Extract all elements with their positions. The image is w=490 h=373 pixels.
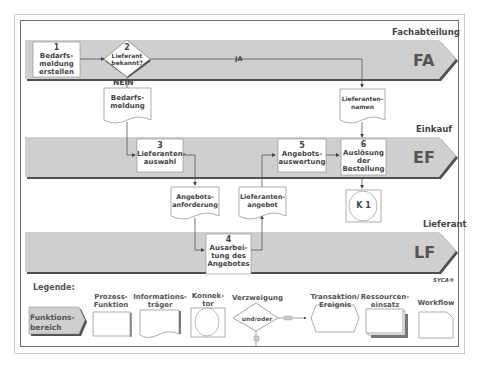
- process-step-5[interactable]: 5 Angebots- auswertung: [278, 141, 326, 166]
- legend-label-konnektor: Konnek- tor: [188, 292, 228, 308]
- legend-label-informationstraeger: Informations- träger: [132, 293, 188, 309]
- document-angebotsanforderung[interactable]: Angebots- anforderung: [171, 193, 219, 209]
- decision-label: Lieferant bekannt?: [111, 52, 142, 66]
- legend-label-verzweigung: Verzweigung: [232, 294, 282, 302]
- step-number: 5: [278, 141, 326, 150]
- connector-k1[interactable]: K 1: [346, 202, 381, 210]
- document-bedarfsmeldung[interactable]: Bedarfs- meldung: [104, 94, 151, 110]
- legend-label-transaktion: Transaktion/ Ereignis: [301, 293, 369, 309]
- legend-shape-prozess: [93, 312, 131, 337]
- legend-shape-informationstraeger: [140, 310, 180, 338]
- process-step-6[interactable]: 6 Auslösung der Bestellung: [341, 140, 386, 173]
- decision-2[interactable]: 2 Lieferant bekannt?: [108, 43, 146, 66]
- process-step-4[interactable]: 4 Ausarbei- tung des Angebotes: [206, 235, 251, 268]
- legend-shape-workflow: [419, 312, 453, 338]
- step-number: 1: [33, 43, 80, 52]
- brand-mark: SYCA®: [433, 277, 455, 283]
- no-label: NEIN: [113, 79, 133, 87]
- lane-code-lf: LF: [414, 243, 435, 262]
- lane-code-fa: FA: [413, 51, 434, 70]
- document-lieferantennamen[interactable]: Lieferanten- namen: [340, 95, 385, 111]
- document-lieferantenangebot[interactable]: Lieferanten- angebot: [239, 193, 286, 209]
- lane-name-lf: Lieferant: [423, 219, 467, 229]
- step-number: 6: [341, 140, 386, 149]
- legend-verzweigung-inner: und/oder: [240, 315, 274, 323]
- legend-label-ressourcen: Ressourcen- einsatz: [360, 293, 410, 309]
- step-label: Auslösung der Bestellung: [342, 149, 384, 173]
- legend-shape-transaktion: [311, 305, 359, 332]
- step-number: 4: [206, 235, 251, 244]
- legend-label-prozess: Prozess- Funktion: [88, 293, 134, 309]
- process-step-1[interactable]: 1 Bedarfs- meldung erstellen: [33, 43, 80, 76]
- legend-shape-verzweigung: [233, 303, 306, 346]
- process-step-3[interactable]: 3 Lieferanten- auswahl: [137, 141, 183, 166]
- step-label: Lieferanten- auswahl: [137, 150, 186, 166]
- legend-shape-konnektor: [191, 308, 225, 337]
- step-label: Ausarbei- tung des Angebotes: [207, 244, 249, 268]
- legend-label-workflow: Workflow: [413, 299, 459, 307]
- step-number: 3: [137, 141, 183, 150]
- decision-number: 2: [108, 43, 146, 52]
- step-label: Angebots- auswertung: [279, 150, 326, 166]
- lane-name-fa: Fachabteilung: [392, 27, 460, 37]
- step-label: Bedarfs- meldung erstellen: [39, 52, 74, 76]
- legend-label-funktionsbereich: Funktions- bereich: [30, 313, 80, 333]
- lane-name-ef: Einkauf: [416, 124, 452, 134]
- legend-shape-ressourcen: [366, 309, 408, 338]
- lane-ef-shape: [25, 137, 458, 179]
- yes-label: JA: [235, 55, 242, 63]
- legend-title: Legende:: [33, 283, 75, 292]
- lane-code-ef: EF: [413, 148, 435, 167]
